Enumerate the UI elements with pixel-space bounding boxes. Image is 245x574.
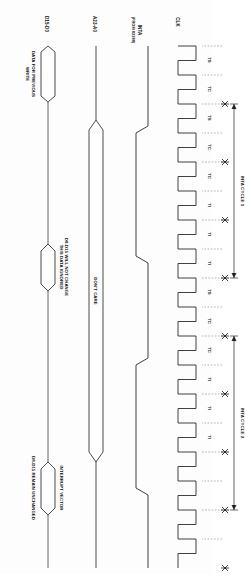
t-state-axis: TS TC TS TC TC TI TI TI TS TC TC TI TI T… xyxy=(200,0,212,574)
t-state-label: TC xyxy=(207,173,212,179)
t-state-label: TS xyxy=(207,289,212,295)
data-previous-write-label-line1: DATA FOR PREVIOUS xyxy=(31,51,36,97)
t-state-label: TS xyxy=(207,115,212,121)
this-data-ignored-line2: D8-D15 WILL NOT CHANGE xyxy=(64,238,69,296)
data-window-previous-write: DATA FOR PREVIOUS WRITE xyxy=(25,46,55,102)
signal-lane-data-bus: DATA FOR PREVIOUS WRITE THIS DATA IGNORE… xyxy=(6,0,66,574)
t-state-label: TI xyxy=(207,406,212,410)
t-state-label: TS xyxy=(207,57,212,63)
t-state-label: TI xyxy=(207,435,212,439)
signal-label-clk: CLK xyxy=(175,17,180,27)
t-state-label: TI xyxy=(207,377,212,381)
timing-diagram-canvas: CLK xyxy=(0,0,212,574)
data-window-ignored: THIS DATA IGNORED D8-D15 WILL NOT CHANGE xyxy=(41,238,69,296)
t-state-label: TC xyxy=(207,347,212,353)
signal-label-inta-source: (FROM 82288) xyxy=(131,17,136,44)
signal-lane-address-bus: DON'T CARE A23-A0 xyxy=(74,0,114,574)
d8-d15-remain-unchanged-label: D8-D15 REMAIN UNCHANGED xyxy=(31,456,36,520)
t-state-marker-row: TS TC TS TC TC TI TI TI TS TC TC TI TI T… xyxy=(204,0,212,574)
t-state-label: TC xyxy=(207,318,212,324)
signal-label-inta: INTA xyxy=(137,25,142,36)
signal-lane-inta: INTA (FROM 82288) xyxy=(120,0,160,574)
signal-label-address-bus: A23-A0 xyxy=(92,16,97,33)
signal-label-data-bus: D15-D0 xyxy=(44,16,49,33)
t-state-label: TI xyxy=(207,203,212,207)
data-window-interrupt-vector: INTERRUPT VECTOR D8-D15 REMAIN UNCHANGED xyxy=(31,456,64,520)
t-state-label: TC xyxy=(207,144,212,150)
data-bus-waveform: DATA FOR PREVIOUS WRITE THIS DATA IGNORE… xyxy=(6,0,66,574)
t-state-label: TI xyxy=(207,261,212,265)
t-state-label: TC xyxy=(207,86,212,92)
t-state-label: TI xyxy=(207,232,212,236)
data-previous-write-label-line2: WRITE xyxy=(25,67,30,81)
address-bus-dont-care-label: DON'T CARE xyxy=(93,277,98,304)
timing-diagram-figure: CLK xyxy=(0,0,212,574)
interrupt-vector-label: INTERRUPT VECTOR xyxy=(59,466,64,512)
inta-waveform: INTA (FROM 82288) xyxy=(120,0,160,574)
address-bus-waveform: DON'T CARE A23-A0 xyxy=(74,0,114,574)
